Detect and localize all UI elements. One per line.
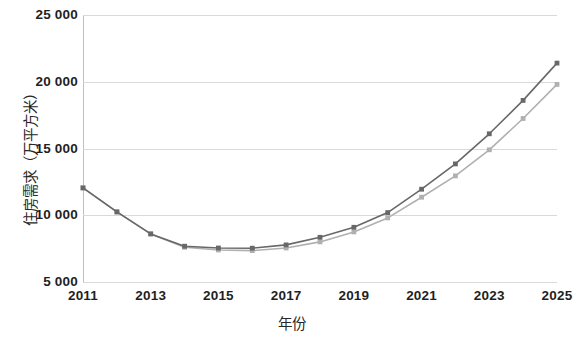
x-tick-label: 2023 xyxy=(459,288,519,303)
x-tick-label: 2021 xyxy=(392,288,452,303)
data-point-marker xyxy=(419,187,424,192)
data-point-marker xyxy=(453,162,458,167)
data-point-marker xyxy=(284,243,289,248)
data-point-marker xyxy=(352,225,357,230)
data-point-marker xyxy=(81,186,86,191)
plot-area xyxy=(83,15,557,282)
y-tick-label: 15 000 xyxy=(4,141,78,156)
x-tick-label: 2015 xyxy=(188,288,248,303)
x-axis-title: 年份 xyxy=(0,312,584,333)
data-point-marker xyxy=(555,61,560,66)
x-tick-label: 2025 xyxy=(527,288,584,303)
y-tick-label: 20 000 xyxy=(4,74,78,89)
data-point-marker xyxy=(115,210,120,215)
data-point-marker xyxy=(385,210,390,215)
data-point-marker xyxy=(521,116,526,121)
data-point-marker xyxy=(216,246,221,251)
data-point-marker xyxy=(555,82,560,87)
series-svg xyxy=(83,15,557,282)
line-series-1 xyxy=(83,63,557,248)
y-tick-label: 10 000 xyxy=(4,207,78,222)
y-tick-label: 25 000 xyxy=(4,7,78,22)
data-point-marker xyxy=(385,216,390,221)
data-point-marker xyxy=(318,235,323,240)
data-point-marker xyxy=(453,174,458,179)
x-tick-label: 2019 xyxy=(324,288,384,303)
housing-demand-line-chart: 住房需求（万平方米） 5 00010 00015 00020 00025 000… xyxy=(0,0,584,338)
x-tick-label: 2017 xyxy=(256,288,316,303)
data-point-marker xyxy=(521,98,526,103)
data-point-marker xyxy=(182,244,187,249)
data-point-marker xyxy=(148,232,153,237)
x-axis-tick-labels: 20112013201520172019202120232025 xyxy=(0,288,584,308)
x-tick-label: 2013 xyxy=(121,288,181,303)
line-series-2 xyxy=(83,84,557,250)
data-point-marker xyxy=(250,246,255,251)
data-point-marker xyxy=(487,147,492,152)
x-tick-label: 2011 xyxy=(53,288,113,303)
data-point-marker xyxy=(487,131,492,136)
y-tick-label: 5 000 xyxy=(4,274,78,289)
data-point-marker xyxy=(318,240,323,245)
data-point-marker xyxy=(352,230,357,235)
data-point-marker xyxy=(419,195,424,200)
gridline-5000 xyxy=(83,282,557,283)
